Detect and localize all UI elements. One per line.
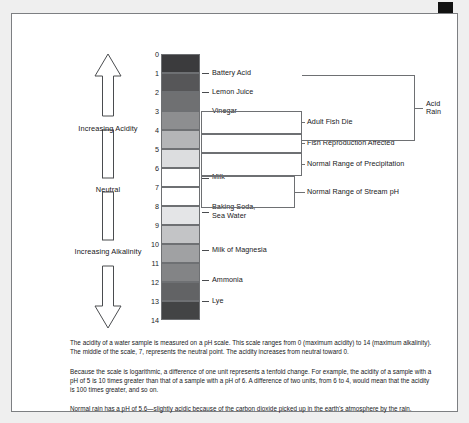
ph-tick-label: 9 (145, 221, 159, 230)
ph-color-scale (161, 54, 200, 320)
ph-tick-label: 4 (145, 126, 159, 135)
ph-band (161, 244, 200, 263)
acid-rain-leader (415, 108, 423, 109)
range-label: Normal Range of Stream pH (307, 188, 399, 196)
ph-band (161, 206, 200, 225)
ph-tick-label: 8 (145, 202, 159, 211)
ph-band (161, 282, 200, 301)
ph-tick-label: 14 (145, 316, 159, 325)
substance-label: Battery Acid (212, 69, 251, 77)
ph-tick-label: 13 (145, 297, 159, 306)
paragraph: Because the scale is logarithmic, a diff… (70, 367, 432, 394)
ph-tick-labels: 01234567891011121314 (145, 47, 159, 327)
callout-leader (202, 92, 209, 93)
callout-leader (202, 212, 209, 213)
axis-label-increasing-alkalinity: Increasing Alkalinity (58, 248, 158, 257)
substance-label: Milk of Magnesia (212, 246, 267, 254)
substance-label: Lye (212, 297, 223, 305)
axis-label-increasing-acidity: Increasing Acidity (58, 125, 158, 134)
substance-label: Lemon Juice (212, 88, 253, 96)
figure-frame: Increasing Acidity Neutral Increasing Al… (11, 13, 458, 412)
ph-tick-label: 10 (145, 240, 159, 249)
range-box (201, 176, 295, 208)
ph-tick-label: 5 (145, 145, 159, 154)
ph-tick-label: 11 (145, 259, 159, 268)
acid-rain-box (302, 75, 415, 142)
ph-scale-figure: Increasing Acidity Neutral Increasing Al… (0, 0, 469, 423)
ph-tick-label: 3 (145, 107, 159, 116)
acid-rain-label: Acid Rain (426, 100, 441, 117)
ph-tick-label: 0 (145, 50, 159, 59)
ph-band (161, 130, 200, 149)
substance-label: Ammonia (212, 276, 243, 284)
range-box (201, 153, 302, 176)
callout-leader (202, 301, 209, 302)
ph-band (161, 263, 200, 282)
paragraph: Normal rain has a pH of 5.6—slightly aci… (70, 404, 432, 413)
ph-tick-label: 2 (145, 88, 159, 97)
range-leader (302, 143, 305, 144)
explanatory-text: The acidity of a water sample is measure… (70, 338, 432, 423)
ph-tick-label: 1 (145, 69, 159, 78)
ph-tick-label: 7 (145, 183, 159, 192)
range-label: Normal Range of Precipitation (307, 160, 404, 168)
range-box (201, 111, 302, 134)
axis-label-neutral: Neutral (58, 186, 158, 195)
range-leader (302, 164, 305, 165)
paragraph: The acidity of a water sample is measure… (70, 338, 432, 356)
callout-leader (202, 73, 209, 74)
ph-band (161, 54, 200, 73)
ph-band (161, 73, 200, 92)
ph-tick-label: 6 (145, 164, 159, 173)
corner-registration-mark (438, 2, 453, 13)
ph-tick-label: 12 (145, 278, 159, 287)
ph-band (161, 92, 200, 111)
acidity-alkalinity-axis: Increasing Acidity Neutral Increasing Al… (58, 52, 158, 330)
ph-band (161, 149, 200, 168)
callout-leader (202, 280, 209, 281)
ph-band (161, 111, 200, 130)
callout-leader (202, 250, 209, 251)
ph-band (161, 187, 200, 206)
range-box (201, 134, 302, 153)
ph-band (161, 168, 200, 187)
range-leader (295, 192, 305, 193)
ph-band (161, 301, 200, 320)
ph-band (161, 225, 200, 244)
